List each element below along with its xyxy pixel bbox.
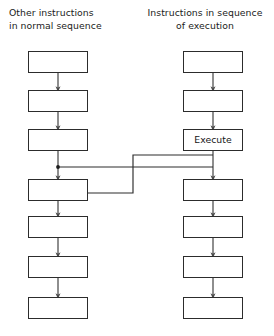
right-box-1[interactable] [183, 51, 243, 73]
column-header-left: Other instructions in normal sequence [9, 7, 134, 32]
left-box-7[interactable] [28, 297, 88, 319]
column-header-right: Instructions in sequence of execution [141, 7, 269, 32]
left-box-2[interactable] [28, 90, 88, 112]
left-box-3[interactable] [28, 129, 88, 151]
right-box-7[interactable] [183, 297, 243, 319]
junction-dot-left-upper [56, 165, 60, 169]
right-box-2[interactable] [183, 90, 243, 112]
right-box-execute[interactable]: Execute [183, 129, 243, 151]
right-box-6[interactable] [183, 256, 243, 278]
left-box-4[interactable] [28, 179, 88, 201]
right-box-4[interactable] [183, 179, 243, 201]
left-box-5[interactable] [28, 216, 88, 238]
left-box-1[interactable] [28, 51, 88, 73]
left-box-6[interactable] [28, 256, 88, 278]
flow-diagram: Other instructions in normal sequence In… [0, 0, 274, 336]
right-box-5[interactable] [183, 216, 243, 238]
right-box-execute-label: Execute [194, 135, 232, 144]
